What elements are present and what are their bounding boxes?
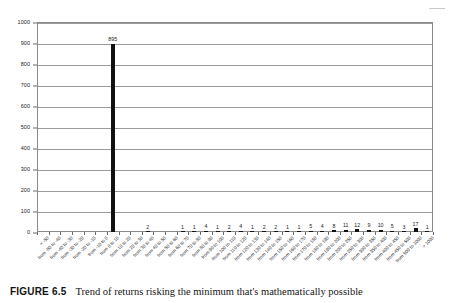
x-axis-tick [119,232,120,235]
x-axis-tick [177,232,178,235]
gridline [38,23,432,24]
gridline [38,191,432,192]
x-axis-tick [95,232,96,235]
x-axis-tick-label: > 1000 [422,236,435,249]
y-axis-tick-label: 0 [27,230,30,235]
x-axis-tick [398,232,399,235]
y-axis-tick-label: 400 [21,146,30,151]
x-axis-tick [305,232,306,235]
y-axis-tick [33,65,37,66]
x-axis-tick [351,232,352,235]
y-axis-tick-label: 1000 [18,20,30,25]
x-axis-tick [165,232,166,235]
x-axis-tick [37,232,38,235]
x-axis-tick [188,232,189,235]
y-axis-tick-label: 800 [21,62,30,67]
y-axis-tick-label: 700 [21,83,30,88]
x-axis-tick [340,232,341,235]
x-axis-tick [223,232,224,235]
x-axis-tick [363,232,364,235]
x-axis-tick [270,232,271,235]
x-axis-tick [153,232,154,235]
x-axis-tick [130,232,131,235]
gridline [38,170,432,171]
x-axis-tick [212,232,213,235]
y-axis-tick [33,212,37,213]
gridline [38,65,432,66]
x-axis-tick [84,232,85,235]
x-axis-tick [258,232,259,235]
x-axis-tick [72,232,73,235]
x-axis-tick [317,232,318,235]
y-axis-tick [33,170,37,171]
y-axis-tick [33,44,37,45]
x-axis-tick [200,232,201,235]
y-axis-tick-label: 500 [21,125,30,130]
x-axis-tick [235,232,236,235]
page-edge-mark-icon [429,8,445,14]
gridline [38,149,432,150]
y-axis-tick [33,149,37,150]
gridline [38,212,432,213]
y-axis-tick-label: 900 [21,41,30,46]
x-axis-tick [49,232,50,235]
y-axis-tick-label: 300 [21,167,30,172]
gridline [38,44,432,45]
x-axis-tick [107,232,108,235]
x-axis-tick [142,232,143,235]
figure-caption: FIGURE 6.5Trend of returns risking the m… [10,285,450,298]
y-axis-tick-label: 600 [21,104,30,109]
x-axis-tick [60,232,61,235]
x-axis: < -50from -50 to -40from -40 to -30from … [37,232,433,284]
y-axis-tick [33,86,37,87]
y-axis-tick-label: 100 [21,209,30,214]
x-axis-tick [247,232,248,235]
y-axis-tick [33,107,37,108]
gridline [38,128,432,129]
y-axis-tick [33,191,37,192]
figure-caption-text: Trend of returns risking the minimum tha… [75,286,362,297]
chart-plot-frame [37,22,433,232]
x-axis-tick [410,232,411,235]
gridline [38,86,432,87]
figure-container: 01002003004005006007008009001000 8952114… [0,0,453,303]
y-axis-tick [33,128,37,129]
x-axis-tick [282,232,283,235]
y-axis: 01002003004005006007008009001000 [0,22,37,233]
y-axis-tick [33,23,37,24]
x-axis-tick [386,232,387,235]
figure-number: FIGURE 6.5 [10,286,66,297]
x-axis-tick [433,232,434,235]
y-axis-tick-label: 200 [21,188,30,193]
x-axis-tick [421,232,422,235]
gridline [38,107,432,108]
x-axis-tick [328,232,329,235]
x-axis-tick [293,232,294,235]
x-axis-tick [375,232,376,235]
